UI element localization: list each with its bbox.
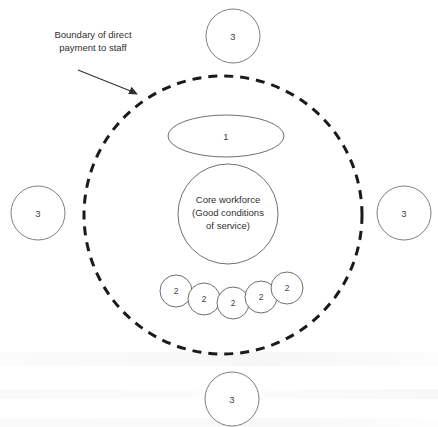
boundary-callout-line-1: Boundary of direct [54,29,131,40]
core-workforce-label-line-2: (Good conditions [192,207,264,218]
group-2-cluster: 2 2 2 2 2 [160,272,303,319]
core-workforce-label-line-1: Core workforce [196,194,260,205]
group-2-node-label: 2 [174,286,179,296]
group-2-node-label: 2 [202,294,207,304]
group-3-node-bottom-label: 3 [229,394,234,405]
group-2-node-label: 2 [231,298,236,308]
group-3-node-right-label: 3 [401,208,406,219]
group-2-node-label: 2 [259,292,264,302]
core-workforce-label-line-3: of service) [206,220,250,231]
group-3-node-left-label: 3 [35,208,40,219]
diagram-canvas: Boundary of direct payment to staff 1 Co… [0,0,438,427]
group-1-label: 1 [223,131,228,142]
group-3-node-top-label: 3 [230,31,235,42]
boundary-callout-line-2: payment to staff [59,42,127,53]
boundary-callout: Boundary of direct payment to staff [54,29,138,95]
boundary-callout-arrow-line [78,70,133,92]
group-2-node-label: 2 [285,283,290,293]
core-workforce: Core workforce (Good conditions of servi… [178,164,278,264]
group-1-ellipse: 1 [168,115,284,157]
